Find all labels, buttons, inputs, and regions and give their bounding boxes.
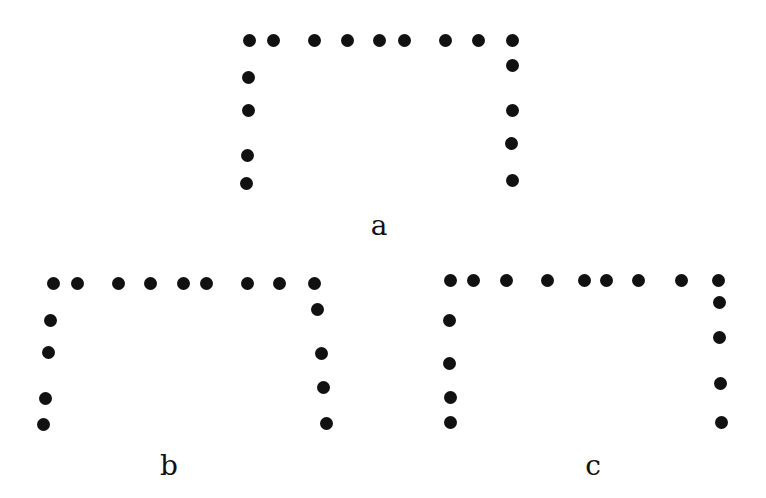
dot [714,377,727,390]
dot [713,296,726,309]
dot [500,274,513,287]
dot [712,274,725,287]
dot-frames-diagram: a b c [0,0,766,498]
dot [444,391,457,404]
dot [444,274,457,287]
figure-c: c [0,0,766,498]
dot [675,274,688,287]
dot [713,331,726,344]
dot [443,357,456,370]
dot [444,416,457,429]
dot [443,314,456,327]
dot [541,274,554,287]
dot [632,274,645,287]
dot [715,416,728,429]
figure-label-c: c [585,452,601,480]
dot [600,274,613,287]
dot [578,274,591,287]
dot [467,274,480,287]
